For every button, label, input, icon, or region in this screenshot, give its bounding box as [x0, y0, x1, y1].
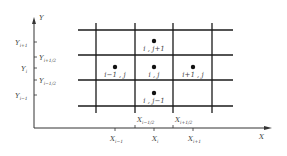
node-dot — [113, 65, 117, 69]
x-tick-label: Xi — [151, 135, 159, 144]
x-tick-label: Xi−1 — [109, 135, 123, 144]
x-axis-label: X — [258, 133, 265, 141]
y-ticks: Yi+1 Yi+1/2 Yi Yi−1/2 Yi−1 — [15, 39, 56, 101]
x-tick-label: Xi+1/2 — [174, 116, 193, 125]
node-label: i−1 , j — [104, 71, 126, 79]
x-ticks: Xi−1/2 Xi+1/2 Xi−1 Xi Xi+1 — [109, 116, 201, 144]
y-axis-label: Y — [39, 14, 45, 22]
y-tick-label: Yi+1/2 — [39, 54, 56, 63]
node-label: i+1 , j — [182, 71, 204, 79]
node-label: i , j — [148, 71, 160, 79]
node-dot — [152, 65, 156, 69]
x-tick-label: Xi−1/2 — [136, 116, 155, 125]
grid-diagram: Y X Yi+1 Yi+1/2 Yi Yi−1/2 Yi−1 Xi−1/2 Xi… — [0, 0, 287, 156]
node-label: i , j+1 — [143, 45, 164, 53]
y-tick-label: Yi−1 — [15, 92, 28, 101]
x-tick-label: Xi+1 — [187, 135, 201, 144]
x-axis-arrow-icon — [264, 126, 272, 130]
node-label: i , j−1 — [143, 97, 164, 105]
node-dot — [191, 65, 195, 69]
y-tick-label: Yi — [21, 65, 28, 74]
node-dot — [152, 39, 156, 43]
nodes: i , j+1 i−1 , j i , j i+1 , j i , j−1 — [104, 39, 204, 105]
y-tick-label: Yi−1/2 — [39, 77, 56, 86]
y-axis-arrow-icon — [32, 17, 36, 24]
node-dot — [152, 91, 156, 95]
y-tick-label: Yi+1 — [15, 39, 28, 48]
